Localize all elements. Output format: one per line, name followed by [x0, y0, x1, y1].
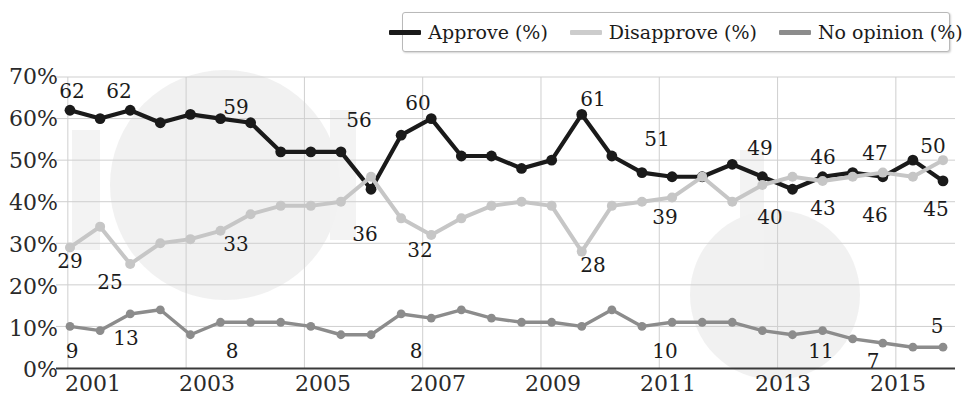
- data-point[interactable]: [396, 130, 407, 141]
- data-label-approve-46-b: 46: [855, 203, 895, 227]
- data-label-disapprove-33: 33: [216, 232, 256, 256]
- data-point[interactable]: [186, 330, 195, 339]
- data-label-approve-45: 45: [916, 197, 956, 221]
- data-label-disapprove-39: 39: [645, 205, 685, 229]
- data-point[interactable]: [668, 318, 677, 327]
- data-point[interactable]: [486, 151, 497, 162]
- data-point[interactable]: [517, 318, 526, 327]
- data-point[interactable]: [155, 238, 165, 248]
- data-label-approve-43: 43: [803, 196, 843, 220]
- data-point[interactable]: [547, 201, 557, 211]
- data-point[interactable]: [276, 201, 286, 211]
- data-point[interactable]: [367, 330, 376, 339]
- data-point[interactable]: [607, 201, 617, 211]
- data-point[interactable]: [66, 322, 75, 331]
- data-point[interactable]: [306, 322, 315, 331]
- data-point[interactable]: [606, 151, 617, 162]
- data-point[interactable]: [546, 155, 557, 166]
- data-label-approve-49: 49: [740, 136, 780, 160]
- data-point[interactable]: [638, 322, 647, 331]
- data-point[interactable]: [185, 109, 196, 120]
- data-point[interactable]: [848, 172, 858, 182]
- data-point[interactable]: [607, 305, 616, 314]
- data-point[interactable]: [908, 172, 918, 182]
- data-label-disapprove-25: 25: [90, 270, 130, 294]
- data-point[interactable]: [818, 176, 828, 186]
- data-point[interactable]: [697, 172, 707, 182]
- data-point[interactable]: [698, 318, 707, 327]
- data-point[interactable]: [938, 176, 949, 187]
- data-point[interactable]: [337, 330, 346, 339]
- data-point[interactable]: [397, 310, 406, 319]
- data-point[interactable]: [125, 259, 135, 269]
- data-point[interactable]: [788, 330, 797, 339]
- data-point[interactable]: [95, 222, 105, 232]
- data-point[interactable]: [787, 184, 798, 195]
- data-point[interactable]: [517, 197, 527, 207]
- data-point[interactable]: [908, 343, 917, 352]
- data-point[interactable]: [336, 197, 346, 207]
- data-label-disapprove-40: 40: [750, 205, 790, 229]
- data-point[interactable]: [246, 318, 255, 327]
- data-point[interactable]: [396, 213, 406, 223]
- data-point[interactable]: [156, 305, 165, 314]
- data-point[interactable]: [577, 322, 586, 331]
- data-point[interactable]: [246, 209, 256, 219]
- data-point[interactable]: [155, 117, 166, 128]
- data-point[interactable]: [336, 146, 347, 157]
- data-point[interactable]: [306, 201, 316, 211]
- data-label-approve-47: 47: [855, 141, 895, 165]
- data-point[interactable]: [96, 326, 105, 335]
- data-point[interactable]: [457, 305, 466, 314]
- data-point[interactable]: [126, 310, 135, 319]
- data-label-approve-56: 56: [339, 108, 379, 132]
- data-point[interactable]: [427, 314, 436, 323]
- data-label-approve-61: 61: [573, 87, 613, 111]
- data-point[interactable]: [728, 318, 737, 327]
- series-layer: [65, 105, 949, 352]
- data-point[interactable]: [185, 234, 195, 244]
- data-label-approve-50: 50: [913, 134, 953, 158]
- data-point[interactable]: [486, 201, 496, 211]
- data-point[interactable]: [95, 113, 106, 124]
- data-point[interactable]: [878, 339, 887, 348]
- data-label-approve-62-a: 62: [52, 79, 92, 103]
- data-point[interactable]: [216, 318, 225, 327]
- data-point[interactable]: [757, 180, 767, 190]
- data-point[interactable]: [516, 163, 527, 174]
- data-point[interactable]: [125, 105, 136, 116]
- data-label-no-opinion-7: 7: [853, 349, 893, 373]
- data-point[interactable]: [818, 326, 827, 335]
- data-point[interactable]: [65, 105, 76, 116]
- data-point[interactable]: [456, 213, 466, 223]
- data-label-approve-62-b: 62: [99, 79, 139, 103]
- data-point[interactable]: [667, 193, 677, 203]
- data-point[interactable]: [787, 172, 797, 182]
- data-label-disapprove-32: 32: [400, 238, 440, 262]
- data-label-disapprove-36: 36: [345, 222, 385, 246]
- data-point[interactable]: [758, 326, 767, 335]
- data-point[interactable]: [878, 168, 888, 178]
- data-label-no-opinion-8-b: 8: [396, 339, 436, 363]
- data-label-approve-59: 59: [216, 95, 256, 119]
- data-label-disapprove-28: 28: [573, 253, 613, 277]
- data-point[interactable]: [366, 184, 377, 195]
- data-label-disapprove-29: 29: [50, 249, 90, 273]
- data-point[interactable]: [275, 146, 286, 157]
- data-point[interactable]: [456, 151, 467, 162]
- data-point[interactable]: [939, 343, 948, 352]
- data-label-approve-60: 60: [398, 91, 438, 115]
- data-point[interactable]: [276, 318, 285, 327]
- data-point[interactable]: [637, 167, 648, 178]
- data-point[interactable]: [727, 159, 738, 170]
- data-point[interactable]: [848, 335, 857, 344]
- data-point[interactable]: [487, 314, 496, 323]
- data-label-no-opinion-10: 10: [645, 339, 685, 363]
- data-point[interactable]: [727, 197, 737, 207]
- data-point[interactable]: [667, 171, 678, 182]
- data-point[interactable]: [366, 172, 376, 182]
- data-point[interactable]: [547, 318, 556, 327]
- data-label-no-opinion-5: 5: [917, 314, 957, 338]
- data-point[interactable]: [305, 146, 316, 157]
